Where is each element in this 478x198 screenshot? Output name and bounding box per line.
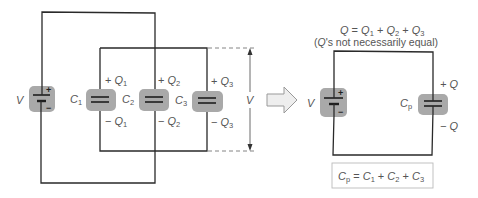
- charge-note: (Q's not necessarily equal): [314, 36, 438, 48]
- capacitor-pad: [192, 91, 223, 112]
- battery-left: + − V: [16, 85, 55, 113]
- capacitor-cp: Cp + Q − Q: [400, 78, 458, 132]
- battery-label: V: [16, 94, 25, 106]
- dimension-label: V: [246, 94, 255, 106]
- battery-minus-sign: −: [46, 103, 51, 113]
- capacitor-top-charge: + Q2: [158, 74, 180, 88]
- capacitor-c3: C3 + Q3 − Q3: [175, 75, 233, 130]
- left-circuit: + − V C1 + Q1 − Q1 C2 + Q2 − Q2 C3: [16, 12, 256, 183]
- capacitor-top-charge: + Q3: [211, 75, 233, 89]
- capacitor-pad: [139, 89, 169, 111]
- dimension-arrowhead-down: [248, 144, 253, 151]
- capacitor-top-charge: + Q: [440, 78, 458, 90]
- arrow-right-icon: [267, 87, 297, 113]
- capacitor-pad: [86, 89, 116, 111]
- capacitor-bottom-charge: − Q2: [158, 115, 180, 129]
- right-loop-wire-bottom: [333, 110, 433, 155]
- battery-plus-sign: +: [46, 85, 51, 95]
- battery-plus-sign: +: [338, 88, 343, 98]
- battery-minus-sign: −: [338, 107, 343, 117]
- dimension-arrowhead-up: [248, 48, 253, 55]
- equivalent-capacitance-formula: Cp = C1 + C2 + C3: [332, 163, 433, 188]
- battery-label: V: [307, 97, 316, 109]
- right-circuit: Q = Q1 + Q2 + Q3 (Q's not necessarily eq…: [307, 24, 458, 188]
- battery-right: + − V: [307, 88, 347, 117]
- parallel-capacitors-diagram: + − V C1 + Q1 − Q1 C2 + Q2 − Q2 C3: [0, 0, 478, 198]
- right-loop-wire: [334, 51, 433, 94]
- capacitor-bottom-charge: − Q: [440, 120, 458, 132]
- capacitor-bottom-charge: − Q1: [105, 115, 127, 129]
- capacitor-label: C2: [122, 93, 134, 107]
- formula-text: Cp = C1 + C2 + C3: [338, 170, 424, 184]
- capacitor-c2: C2 + Q2 − Q2: [122, 74, 180, 129]
- capacitor-label: C3: [175, 94, 187, 108]
- capacitor-label: C1: [70, 93, 82, 107]
- capacitor-top-charge: + Q1: [105, 74, 127, 88]
- capacitor-bottom-charge: − Q3: [211, 116, 233, 130]
- capacitor-c1: C1 + Q1 − Q1: [70, 74, 127, 129]
- capacitor-label: Cp: [400, 97, 412, 111]
